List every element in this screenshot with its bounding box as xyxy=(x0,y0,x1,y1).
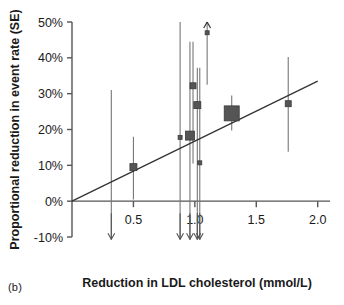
y-tick-label: 20% xyxy=(38,123,63,137)
x-tick-label: 1.5 xyxy=(248,213,265,227)
y-tick-label: -10% xyxy=(34,231,63,245)
scatter-chart: -10%0%10%20%30%40%50%0.51.01.52.0Reducti… xyxy=(0,0,344,305)
data-point-marker[interactable] xyxy=(285,101,291,107)
regression-line xyxy=(72,81,318,201)
data-point-marker[interactable] xyxy=(185,131,194,140)
data-point-marker[interactable] xyxy=(130,164,137,171)
data-point-marker[interactable] xyxy=(198,161,202,165)
data-point-marker[interactable] xyxy=(194,102,201,109)
data-point-marker[interactable] xyxy=(205,31,209,35)
x-tick-label: 1.0 xyxy=(186,213,203,227)
y-tick-label: 50% xyxy=(38,16,63,30)
panel-label: (b) xyxy=(8,281,22,293)
x-tick-label: 2.0 xyxy=(309,213,326,227)
y-tick-label: 0% xyxy=(45,195,63,209)
y-tick-label: 40% xyxy=(38,51,63,65)
data-point-marker[interactable] xyxy=(178,135,182,139)
y-axis-label: Proportional reduction in event rate (SE… xyxy=(8,9,22,249)
x-tick-label: 0.5 xyxy=(125,213,142,227)
y-tick-label: 30% xyxy=(38,87,63,101)
figure-panel: -10%0%10%20%30%40%50%0.51.01.52.0Reducti… xyxy=(0,0,344,305)
data-point-marker[interactable] xyxy=(224,106,239,121)
data-point-marker[interactable] xyxy=(190,83,196,89)
x-axis-label: Reduction in LDL cholesterol (mmol/L) xyxy=(82,276,312,290)
y-tick-label: 10% xyxy=(38,159,63,173)
